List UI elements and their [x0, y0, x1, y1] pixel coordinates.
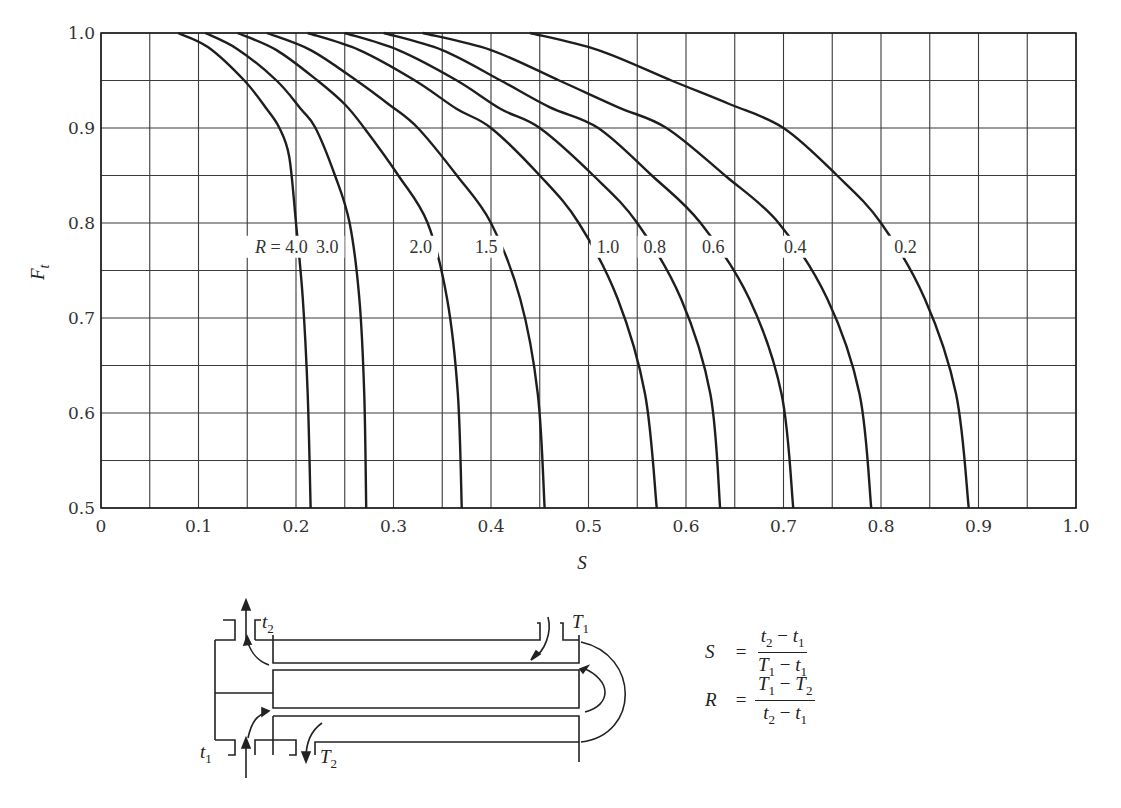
middle-tube	[273, 670, 579, 708]
x-axis-ticks: 00.10.20.30.40.50.60.70.80.91.0	[96, 516, 1090, 536]
label-t2: t2	[262, 611, 274, 636]
y-tick-label: 0.8	[68, 213, 95, 233]
curve-label-R-0.4: 0.4	[784, 237, 807, 257]
x-tick-label: 0.5	[575, 516, 602, 536]
formula-R-numerator: T1 − T2	[755, 673, 815, 701]
curve-label-R-2.0: 2.0	[410, 237, 433, 257]
shell-top	[255, 623, 540, 640]
curve-label-R-0.6: 0.6	[702, 237, 725, 257]
y-tick-label: 0.6	[68, 403, 95, 423]
formula-S: S = t2 − t1 T1 − t1	[705, 628, 815, 676]
formula-block: S = t2 − t1 T1 − t1 R = T1 − T2 t2 − t1	[705, 628, 815, 724]
label-T1: T1	[572, 611, 589, 636]
heat-exchanger-diagram	[215, 600, 625, 778]
y-axis-ticks: 0.50.60.70.80.91.0	[68, 23, 95, 518]
curve-label-R-1.5: 1.5	[475, 237, 498, 257]
shell-bottom	[315, 742, 579, 762]
x-tick-label: 0.4	[477, 516, 504, 536]
formula-S-lhs: S	[705, 641, 727, 663]
curve-label-R-1.0: 1.0	[597, 237, 620, 257]
curve-label-R-4.0: R = 4.0	[254, 237, 308, 257]
x-tick-label: 0.7	[770, 516, 797, 536]
x-tick-label: 0.9	[965, 516, 992, 536]
formula-S-fraction: t2 − t1 T1 − t1	[755, 625, 810, 680]
x-tick-label: 0.2	[282, 516, 309, 536]
y-tick-label: 0.5	[68, 498, 95, 518]
curve-labels: R = 4.03.02.01.51.00.80.60.40.2	[245, 236, 923, 258]
diagram-labels: t2 T1 t1 T2	[200, 611, 589, 771]
x-tick-label: 0	[96, 516, 107, 536]
formula-R-eq: =	[727, 689, 755, 711]
label-t1: t1	[200, 741, 212, 766]
formula-R-denominator: t2 − t1	[760, 701, 810, 728]
x-tick-label: 0.3	[380, 516, 407, 536]
return-bend	[581, 642, 625, 742]
formula-R: R = T1 − T2 t2 − t1	[705, 676, 815, 724]
channel-head	[215, 640, 273, 740]
formula-R-fraction: T1 − T2 t2 − t1	[755, 673, 815, 728]
x-tick-label: 1.0	[1062, 516, 1089, 536]
curve-label-R-0.2: 0.2	[894, 237, 917, 257]
chart-canvas: 00.10.20.30.40.50.60.70.80.91.0 0.50.60.…	[0, 0, 1121, 808]
formula-S-numerator: t2 − t1	[758, 625, 808, 653]
lower-tube	[273, 716, 579, 742]
label-T2: T2	[320, 746, 337, 771]
formula-R-lhs: R	[705, 689, 727, 711]
y-tick-label: 1.0	[68, 23, 95, 43]
x-tick-label: 0.6	[672, 516, 699, 536]
chart-grid	[101, 33, 1076, 508]
y-axis-label: Ft	[27, 263, 52, 281]
x-tick-label: 0.1	[185, 516, 212, 536]
x-axis-label: S	[577, 552, 587, 573]
formula-S-eq: =	[727, 641, 755, 663]
curve-label-R-0.8: 0.8	[644, 237, 667, 257]
curve-label-R-3.0: 3.0	[316, 237, 339, 257]
y-tick-label: 0.9	[68, 118, 95, 138]
x-tick-label: 0.8	[867, 516, 894, 536]
y-tick-label: 0.7	[68, 308, 95, 328]
